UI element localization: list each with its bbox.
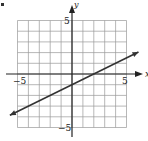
plotted-line bbox=[10, 52, 139, 115]
y-axis-label: y bbox=[73, 0, 79, 9]
x-axis-arrow-icon bbox=[135, 71, 143, 77]
x-tick-pos5: 5 bbox=[122, 76, 128, 86]
y-tick-pos5: 5 bbox=[64, 16, 70, 26]
y-tick-neg5: −5 bbox=[58, 123, 72, 133]
coordinate-plane: x y −5 5 5 −5 bbox=[0, 0, 148, 141]
axes bbox=[6, 5, 143, 137]
corner-mark bbox=[1, 3, 4, 6]
x-axis-label: x bbox=[145, 69, 148, 79]
x-tick-neg5: −5 bbox=[13, 76, 27, 86]
